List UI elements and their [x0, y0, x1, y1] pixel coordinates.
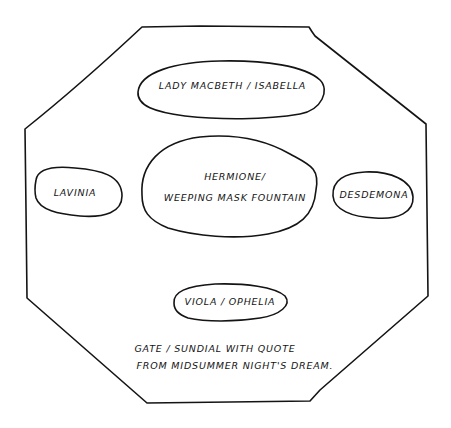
- area-center-outline: [142, 136, 317, 237]
- entrance-note-line2: FROM MIDSUMMER NIGHT'S DREAM.: [110, 357, 360, 375]
- area-west-label: LAVINIA: [40, 184, 110, 202]
- area-south-label: VIOLA / OPHELIA: [175, 293, 285, 311]
- area-center-label-line1: HERMIONE/: [150, 168, 320, 186]
- area-center-label-line2: WEEPING MASK FOUNTAIN: [150, 189, 320, 207]
- entrance-note-line1: GATE / SUNDIAL WITH QUOTE: [130, 340, 300, 358]
- area-north-label: LADY MACBETH / ISABELLA: [150, 77, 315, 95]
- area-east-label: DESDEMONA: [334, 186, 414, 204]
